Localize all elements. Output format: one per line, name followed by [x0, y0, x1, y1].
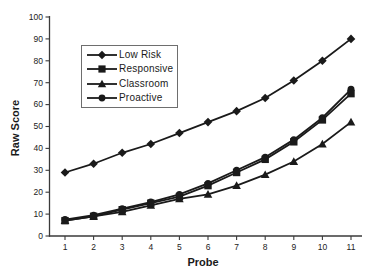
- triangle-legend-key: [87, 78, 117, 90]
- square-marker: [262, 156, 269, 163]
- square-marker: [319, 116, 326, 123]
- series-classroom: [61, 118, 356, 224]
- square-marker: [347, 90, 354, 97]
- x-tick-label: 1: [63, 242, 68, 252]
- square-legend-key: [87, 63, 117, 75]
- square-marker: [90, 213, 97, 220]
- diamond-marker: [118, 148, 127, 157]
- x-tick-label: 8: [263, 242, 268, 252]
- y-tick-label: 60: [34, 99, 44, 109]
- triangle-marker: [290, 157, 299, 165]
- square-marker: [233, 169, 240, 176]
- diamond-marker: [204, 118, 213, 127]
- x-tick-label: 6: [206, 242, 211, 252]
- diamond-marker: [98, 51, 106, 59]
- y-tick-label: 0: [38, 231, 43, 241]
- y-tick-label: 90: [34, 34, 44, 44]
- diamond-marker: [89, 159, 98, 168]
- y-tick-label: 40: [34, 143, 44, 153]
- y-tick-label: 70: [34, 78, 44, 88]
- square-marker: [290, 138, 297, 145]
- legend-label: Responsive: [119, 64, 173, 74]
- line-chart-canvas: 01020304050607080901001234567891011: [0, 0, 381, 280]
- circle-marker: [99, 94, 106, 101]
- square-marker: [176, 193, 183, 200]
- legend-label: Low Risk: [119, 50, 161, 60]
- series-line: [65, 94, 351, 221]
- diamond-marker: [61, 168, 70, 177]
- circle-legend-key: [87, 92, 117, 104]
- diamond-marker: [261, 94, 270, 103]
- legend-item-low-risk: Low Risk: [87, 49, 175, 62]
- chart-figure: 01020304050607080901001234567891011 Raw …: [0, 0, 381, 280]
- x-tick-label: 4: [148, 242, 153, 252]
- square-marker: [204, 182, 211, 189]
- legend-item-proactive: Proactive: [87, 91, 175, 104]
- legend-label: Classroom: [119, 79, 169, 89]
- diamond-marker: [147, 140, 156, 149]
- square-marker: [98, 66, 105, 73]
- diamond-marker: [232, 107, 241, 116]
- x-tick-label: 11: [347, 242, 356, 252]
- legend-item-responsive: Responsive: [87, 63, 175, 76]
- x-tick-label: 7: [234, 242, 239, 252]
- x-tick-label: 2: [91, 242, 96, 252]
- legend-item-classroom: Classroom: [87, 77, 175, 90]
- y-tick-label: 100: [29, 12, 43, 22]
- chart-legend: Low RiskResponsiveClassroomProactive: [81, 45, 178, 108]
- triangle-marker: [347, 118, 356, 126]
- series-line: [65, 89, 351, 219]
- diamond-legend-key: [87, 49, 117, 61]
- y-axis-title: Raw Score: [9, 100, 21, 156]
- x-tick-label: 9: [291, 242, 296, 252]
- square-marker: [119, 206, 126, 213]
- y-tick-label: 20: [34, 187, 44, 197]
- legend-label: Proactive: [119, 93, 163, 103]
- x-tick-label: 5: [177, 242, 182, 252]
- y-tick-label: 30: [34, 165, 44, 175]
- x-tick-label: 3: [120, 242, 125, 252]
- y-tick-label: 80: [34, 56, 44, 66]
- square-marker: [147, 199, 154, 206]
- x-tick-label: 10: [318, 242, 328, 252]
- square-marker: [61, 217, 68, 224]
- diamond-marker: [175, 129, 184, 138]
- y-tick-label: 50: [34, 121, 44, 131]
- y-tick-label: 10: [34, 209, 44, 219]
- series-line: [65, 122, 351, 221]
- x-axis-title: Probe: [187, 256, 218, 268]
- series-responsive: [61, 90, 354, 224]
